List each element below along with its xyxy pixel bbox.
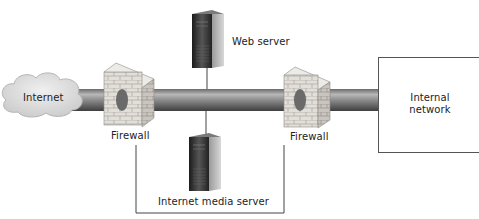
firewall-right-icon bbox=[284, 67, 330, 128]
internal-network-label: Internal network bbox=[402, 92, 458, 116]
internet-label: Internet bbox=[23, 92, 64, 103]
web-server-label: Web server bbox=[232, 36, 290, 47]
firewall-left-label: Firewall bbox=[111, 130, 150, 141]
web-server-icon bbox=[192, 10, 224, 68]
media-server-icon bbox=[189, 133, 221, 191]
firewall-left-icon bbox=[104, 63, 154, 127]
internal-network-label-line2: network bbox=[402, 104, 458, 116]
firewall-right-label: Firewall bbox=[290, 131, 329, 142]
media-server-label: Internet media server bbox=[158, 196, 269, 207]
internal-network-label-line1: Internal bbox=[402, 92, 458, 104]
